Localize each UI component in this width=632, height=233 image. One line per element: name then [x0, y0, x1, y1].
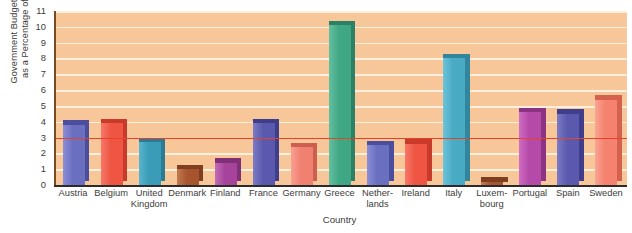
bar-slot	[399, 11, 437, 185]
x-axis-tick-label-line: Italy	[435, 188, 473, 199]
bar-face	[519, 112, 541, 185]
bar-top	[481, 177, 503, 182]
bar-face	[405, 144, 427, 185]
x-axis-tick-label: Nether-lands	[359, 188, 397, 209]
bar-face	[253, 123, 275, 185]
bar-side	[313, 143, 318, 181]
x-axis-tick-label-line: Austria	[54, 188, 92, 199]
bar-slot	[589, 11, 627, 185]
bar[interactable]	[253, 123, 275, 185]
x-axis-tick-label-line: Greece	[320, 188, 358, 199]
y-axis-tick-labels: 01234567891011	[22, 0, 50, 233]
bar-top-corner	[579, 109, 584, 114]
bar-side	[275, 119, 280, 181]
x-axis-tick-label-line: Kingdom	[130, 199, 168, 210]
x-axis-tick-label: France	[244, 188, 282, 199]
bar-slot	[208, 11, 246, 185]
bar-side	[351, 21, 356, 181]
x-axis-tick-label: Sweden	[587, 188, 625, 199]
x-axis-tick-label-line: Finland	[206, 188, 244, 199]
bar-side	[123, 119, 128, 181]
bar-top-corner	[465, 54, 470, 59]
x-axis-tick-label: Denmark	[168, 188, 206, 199]
x-axis-tick-label: Portugal	[511, 188, 549, 199]
y-axis-tick-label: 10	[36, 22, 46, 31]
bar-top-corner	[503, 177, 508, 182]
bar-series	[56, 11, 627, 185]
bar-face	[215, 163, 237, 185]
bar[interactable]	[519, 112, 541, 185]
x-axis-tick-label-line: Spain	[549, 188, 587, 199]
bar-top	[177, 165, 199, 170]
y-axis-tick-label: 4	[41, 117, 46, 126]
bar[interactable]	[139, 142, 161, 185]
bar[interactable]	[177, 169, 199, 185]
bar-slot	[132, 11, 170, 185]
x-axis-tick-label-line: Portugal	[511, 188, 549, 199]
bar-slot	[475, 11, 513, 185]
bar-face	[139, 142, 161, 185]
bar-top-corner	[199, 165, 204, 170]
x-axis-tick-label-line: France	[244, 188, 282, 199]
bar[interactable]	[101, 123, 123, 185]
bar-top	[367, 141, 389, 146]
y-axis-tick-label: 5	[41, 101, 46, 110]
bar-slot	[246, 11, 284, 185]
bar-face	[101, 123, 123, 185]
bar-face	[367, 145, 389, 185]
x-axis-title: Country	[54, 214, 625, 225]
bar-face	[63, 125, 85, 185]
bar-side	[579, 109, 584, 180]
bar[interactable]	[405, 144, 427, 185]
y-axis-tick-label: 3	[41, 133, 46, 142]
bar[interactable]	[329, 25, 351, 185]
bar-top-corner	[275, 119, 280, 124]
x-axis-tick-label: Germany	[282, 188, 320, 199]
bar-top-corner	[123, 119, 128, 124]
x-axis-tick-label: Greece	[320, 188, 358, 199]
x-axis-tick-label: Finland	[206, 188, 244, 199]
bar-slot	[513, 11, 551, 185]
x-axis-tick-label: UnitedKingdom	[130, 188, 168, 209]
x-axis-tick-label-line: Germany	[282, 188, 320, 199]
y-axis-tick-label: 6	[41, 85, 46, 94]
bar[interactable]	[557, 114, 579, 185]
bar-face	[177, 169, 199, 185]
x-axis-tick-label: Austria	[54, 188, 92, 199]
bar-side	[161, 138, 166, 181]
bar[interactable]	[63, 125, 85, 185]
bar[interactable]	[367, 145, 389, 185]
y-axis-tick-label: 8	[41, 54, 46, 63]
bar[interactable]	[443, 58, 465, 185]
bar[interactable]	[215, 163, 237, 185]
x-axis-tick-label: Ireland	[397, 188, 435, 199]
bar-slot	[56, 11, 94, 185]
y-axis-tick-label: 7	[41, 70, 46, 79]
bar-top-corner	[351, 21, 356, 26]
bar-top	[215, 158, 237, 163]
plot-area	[54, 11, 627, 185]
x-axis-tick-label-line: Belgium	[92, 188, 130, 199]
bar[interactable]	[595, 100, 617, 185]
bar-top-corner	[541, 108, 546, 113]
bar-top-corner	[237, 158, 242, 163]
bar-top	[595, 95, 617, 100]
bar-slot	[284, 11, 322, 185]
chart-container: Government Budget Deficit as a Percentag…	[0, 0, 632, 233]
x-axis-tick-label-line: Luxem-	[473, 188, 511, 199]
x-axis-tick-label: Luxem-bourg	[473, 188, 511, 209]
bar-top	[557, 109, 579, 114]
bar-top	[443, 54, 465, 59]
bar-top-corner	[313, 143, 318, 148]
bar-slot	[361, 11, 399, 185]
bar[interactable]	[291, 147, 313, 185]
bar-slot	[551, 11, 589, 185]
bar-face	[443, 58, 465, 185]
bar-top	[519, 108, 541, 113]
x-axis-tick-label-line: United	[130, 188, 168, 199]
y-axis-tick-label: 11	[36, 6, 46, 15]
reference-line	[56, 138, 627, 139]
x-axis-tick-label-line: Ireland	[397, 188, 435, 199]
x-axis-tick-label-line: lands	[359, 199, 397, 210]
bar-top	[405, 139, 427, 144]
